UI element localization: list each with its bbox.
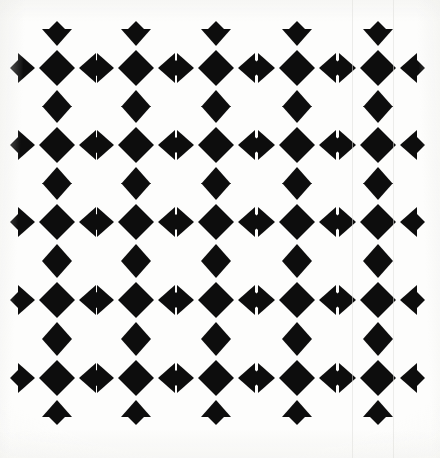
diagram-canvas: Arrow Lattice Diagram A regular 5 by 5 s… <box>0 0 440 458</box>
arrow-lattice-svg: Arrow Lattice Diagram A regular 5 by 5 s… <box>0 0 440 458</box>
